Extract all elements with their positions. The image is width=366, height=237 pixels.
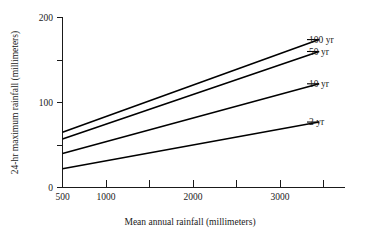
series-label-50yr: 50 yr: [309, 47, 330, 57]
series-label-10yr: 10 yr: [309, 79, 330, 89]
x-tick-label-500: 500: [55, 192, 70, 202]
series-label-2yr: 2 yr: [309, 117, 325, 127]
series-label-100yr: 100 yr: [309, 35, 334, 45]
chart-figure: 200 100 0 24-hr maximum rainfall (millim…: [0, 0, 366, 237]
rainfall-frequency-chart: 200 100 0 24-hr maximum rainfall (millim…: [0, 0, 366, 237]
x-axis-title: Mean annual rainfall (millimeters): [124, 217, 255, 228]
x-tick-label-1000: 1000: [97, 192, 116, 202]
x-tick-label-3000: 3000: [271, 192, 290, 202]
y-tick-label-200: 200: [39, 13, 54, 23]
y-tick-label-100: 100: [39, 98, 54, 108]
y-axis-title: 24-hr maximum rainfall (millimeters): [10, 31, 21, 174]
x-tick-label-2000: 2000: [184, 192, 203, 202]
y-tick-label-0: 0: [48, 183, 53, 193]
